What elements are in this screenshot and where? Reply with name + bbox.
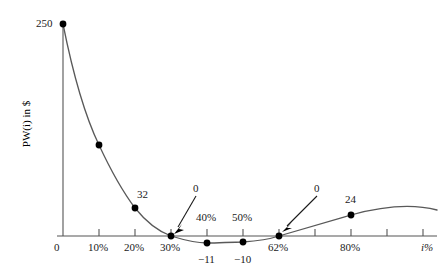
data-point-80pct (348, 212, 355, 219)
axis-value-label-40pct: 40% (196, 212, 216, 223)
chart-canvas (0, 0, 444, 280)
data-point-30pct (168, 233, 175, 240)
x-axis-label: i% (421, 242, 433, 253)
axis-value-label-62pct: 62% (268, 242, 288, 253)
x-tick-label-10pct: 10% (88, 242, 108, 253)
y-axis-label: PW(i) in $ (20, 84, 32, 164)
annotation-label-second-root: 0 (314, 183, 320, 194)
point-label-250: 250 (36, 18, 53, 29)
data-point-40pct (204, 240, 211, 247)
data-point-50pct (240, 239, 247, 246)
data-point-0pct (60, 21, 67, 28)
x-tick-label-0: 0 (54, 242, 60, 253)
x-tick-label-20pct: 20% (124, 242, 144, 253)
point-label-24: 24 (345, 194, 356, 205)
x-axis-ticks (99, 229, 423, 236)
point-label-minus-11: −11 (198, 254, 215, 265)
x-tick-label-80pct: 80% (340, 242, 360, 253)
axis-value-label-50pct: 50% (232, 212, 252, 223)
point-label-32: 32 (137, 189, 148, 200)
data-point-20pct (132, 205, 139, 212)
annotation-label-first-root: 0 (193, 183, 199, 194)
data-point-62pct (276, 233, 283, 240)
pw-vs-interest-rate-chart: PW(i) in $ i% 0 10% 20% 30% 80% 40% 50% … (0, 0, 444, 280)
data-point-10pct (96, 142, 103, 149)
x-tick-label-30pct: 30% (160, 242, 180, 253)
point-label-minus-10: −10 (234, 254, 251, 265)
annotation-arrow-first-root (174, 196, 196, 234)
